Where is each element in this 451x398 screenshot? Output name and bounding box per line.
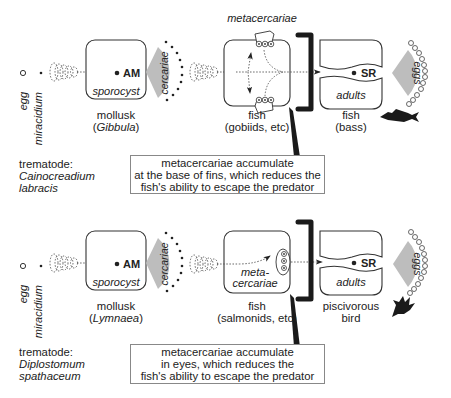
cercariae-coil-icon [190, 63, 218, 81]
bird-host-detail: bird [342, 312, 361, 324]
miracidium-dot-icon [40, 72, 43, 75]
note-pointer [289, 107, 300, 157]
bird-silhouette-icon [392, 296, 415, 317]
sporocyst-label: sporocyst [92, 85, 140, 97]
metacercariae-beads-bottom [256, 97, 274, 103]
sr-label: SR [361, 257, 376, 269]
fish-silhouette-icon [380, 109, 419, 122]
fish-salmonids-host-label: fish [248, 300, 266, 312]
sr-label: SR [361, 67, 376, 79]
note-box-fins: metacercariae accumulate at the base of … [130, 155, 325, 194]
metacercariae-label: metacercariae [227, 12, 297, 24]
cercariae-coil-icon [190, 255, 218, 273]
mollusk-genus-label: (Lymnaea) [89, 312, 143, 324]
egg-icon [20, 70, 25, 75]
cercariae-label: cercariae [158, 51, 170, 94]
fish-gobiids-detail: (gobiids, etc) [225, 121, 290, 133]
egg-icon [20, 263, 25, 268]
mollusk-genus-label: (Gibbula) [93, 121, 140, 133]
am-label: AM [123, 67, 140, 79]
adults-label: adults [336, 89, 366, 101]
row-cainocreadium: egg miracidium AM sporocyst mollusk (Gib… [17, 12, 428, 157]
fish-bass-detail: (bass) [335, 121, 367, 133]
miracidium-coil-icon [50, 254, 78, 272]
metacercariae-in-eye [282, 252, 287, 271]
sr-dot-icon [352, 261, 357, 266]
metacercariae-beads-top [256, 41, 274, 47]
bird-host-label: piscivorous [323, 300, 380, 312]
miracidium-dot-icon [40, 265, 43, 268]
adults-label: adults [336, 276, 366, 288]
sporocyst-label: sporocyst [92, 276, 140, 288]
life-cycle-diagram: egg miracidium AM sporocyst mollusk (Gib… [0, 0, 451, 398]
am-label: AM [123, 258, 140, 270]
am-dot-icon [115, 71, 120, 76]
egg-label: egg [17, 91, 29, 110]
miracidium-label: miracidium [32, 92, 44, 145]
fish-bass-host-label: fish [342, 109, 360, 121]
predation-bracket [298, 222, 311, 299]
miracidium-label: miracidium [32, 285, 44, 338]
mollusk-host-label: mollusk [97, 300, 136, 312]
trematode-label-1: trematode: Cainocreadium labracis [19, 158, 95, 194]
mollusk-host-label: mollusk [97, 109, 136, 121]
note-box-eyes: metacercariae accumulate in eyes, which … [130, 344, 325, 384]
cercariae-label: cercariae [158, 242, 170, 285]
egg-label: egg [17, 284, 29, 303]
miracidium-coil-icon [50, 63, 78, 81]
am-dot-icon [115, 262, 120, 267]
fish-gobiids-host-label: fish [248, 109, 266, 121]
sr-dot-icon [352, 71, 357, 76]
fish-salmonids-detail: (salmonids, etc) [217, 312, 297, 324]
trematode-label-2: trematode: Diplostomum spathaceum [19, 346, 85, 382]
row-diplostomum: egg miracidium AM sporocyst mollusk (Lym… [17, 222, 428, 347]
cercariae-in-fish-label: cercariae [232, 277, 277, 289]
